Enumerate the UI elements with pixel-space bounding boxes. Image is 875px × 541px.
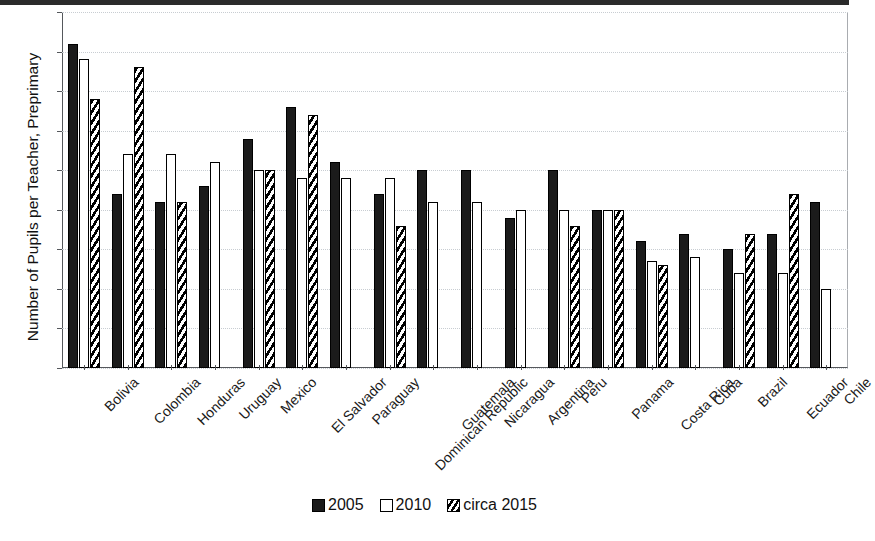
- bar-group: [193, 12, 237, 368]
- bar-2005-honduras: [155, 202, 165, 368]
- gridline: [62, 368, 848, 369]
- bar-group: [149, 12, 193, 368]
- legend-label-2005: 2005: [328, 496, 364, 514]
- y-axis-title: Number of Pupils per Teacher, Preprimary: [24, 12, 42, 382]
- bar-2005-uruguay: [199, 186, 209, 368]
- legend-item-2005: 2005: [312, 496, 364, 514]
- bar-group: [717, 12, 761, 368]
- bar-2010-cuba: [690, 257, 700, 368]
- bar-2010-argentina: [516, 210, 526, 368]
- bar-circa-2015-peru: [570, 226, 580, 368]
- x-axis-tick-label: Bolivia: [101, 374, 141, 414]
- bar-circa-2015-ecuador: [789, 194, 799, 368]
- bar-2005-ecuador: [767, 234, 777, 368]
- x-axis-tick-mark: [477, 365, 478, 370]
- bar-2010-costa-rica: [647, 261, 657, 368]
- legend-label-circa-2015: circa 2015: [463, 496, 537, 514]
- bar-2005-mexico: [243, 139, 253, 368]
- x-axis-tick-mark: [128, 365, 129, 370]
- x-axis-tick-mark: [433, 365, 434, 370]
- legend-item-2010: 2010: [380, 496, 432, 514]
- x-axis-tick-label: Brazil: [754, 374, 790, 410]
- x-axis-tick-mark: [826, 365, 827, 370]
- bar-circa-2015-costa-rica: [658, 265, 668, 368]
- legend-swatch-circa-2015: [447, 499, 460, 512]
- x-axis-tick-mark: [564, 365, 565, 370]
- legend-label-2010: 2010: [396, 496, 432, 514]
- x-axis-tick-mark: [302, 365, 303, 370]
- legend-swatch-2010: [380, 499, 393, 512]
- x-axis-tick-mark: [390, 365, 391, 370]
- bar-2010-colombia: [123, 154, 133, 368]
- bar-2005-dominican-republic: [374, 194, 384, 368]
- bar-group: [630, 12, 674, 368]
- bar-2005-nicaragua: [461, 170, 471, 368]
- x-axis-tick-mark: [215, 365, 216, 370]
- bar-group: [324, 12, 368, 368]
- bar-2010-guatemala: [428, 202, 438, 368]
- bar-group: [673, 12, 717, 368]
- bar-2010-ecuador: [778, 273, 788, 368]
- bar-2010-nicaragua: [472, 202, 482, 368]
- bar-2005-guatemala: [417, 170, 427, 368]
- bar-2005-chile: [810, 202, 820, 368]
- bar-circa-2015-el-salvador: [308, 115, 318, 368]
- bar-group: [455, 12, 499, 368]
- x-axis-tick-mark: [84, 365, 85, 370]
- chart-legend: 2005 2010 circa 2015: [0, 496, 849, 514]
- bar-2010-chile: [821, 289, 831, 368]
- bar-2005-peru: [548, 170, 558, 368]
- x-axis-tick-label: Honduras: [194, 374, 248, 428]
- bar-2010-dominican-republic: [385, 178, 395, 368]
- bar-2005-el-salvador: [286, 107, 296, 368]
- bar-group: [280, 12, 324, 368]
- x-axis-tick-mark: [652, 365, 653, 370]
- bar-2010-honduras: [166, 154, 176, 368]
- bar-group: [106, 12, 150, 368]
- bar-2010-mexico: [254, 170, 264, 368]
- bar-2005-brazil: [723, 249, 733, 368]
- bar-2010-brazil: [734, 273, 744, 368]
- x-axis-tick-mark: [739, 365, 740, 370]
- bar-group: [499, 12, 543, 368]
- top-border: [0, 0, 849, 5]
- y-axis-tick-mark: [57, 368, 62, 369]
- bar-2010-el-salvador: [297, 178, 307, 368]
- bar-2005-bolivia: [68, 44, 78, 368]
- bar-2010-panama: [603, 210, 613, 368]
- bar-circa-2015-mexico: [265, 170, 275, 368]
- bar-2005-argentina: [505, 218, 515, 368]
- x-axis-tick-label: Cuba: [710, 374, 745, 409]
- x-axis-labels: BoliviaColombiaHondurasUruguayMexicoEl S…: [62, 370, 848, 460]
- x-axis-tick-label: Mexico: [277, 374, 320, 417]
- bar-2005-costa-rica: [636, 241, 646, 368]
- x-axis-tick-mark: [171, 365, 172, 370]
- bar-group: [542, 12, 586, 368]
- x-axis-tick-mark: [695, 365, 696, 370]
- bar-2005-paraguay: [330, 162, 340, 368]
- bar-2010-peru: [559, 210, 569, 368]
- bar-circa-2015-bolivia: [90, 99, 100, 368]
- bar-group: [368, 12, 412, 368]
- bar-group: [237, 12, 281, 368]
- bar-group: [586, 12, 630, 368]
- x-axis-tick-mark: [521, 365, 522, 370]
- legend-swatch-2005: [312, 499, 325, 512]
- x-axis-tick-label: Panama: [628, 374, 676, 422]
- plot-area: 454035302520151050: [62, 12, 848, 368]
- legend-item-circa-2015: circa 2015: [447, 496, 537, 514]
- bar-2010-uruguay: [210, 162, 220, 368]
- bar-circa-2015-brazil: [745, 234, 755, 368]
- bar-2005-cuba: [679, 234, 689, 368]
- bar-circa-2015-panama: [614, 210, 624, 368]
- bar-group: [411, 12, 455, 368]
- bar-circa-2015-honduras: [177, 202, 187, 368]
- bar-2010-paraguay: [341, 178, 351, 368]
- bar-circa-2015-colombia: [134, 67, 144, 368]
- bar-circa-2015-dominican-republic: [396, 226, 406, 368]
- bar-2005-panama: [592, 210, 602, 368]
- x-axis-tick-mark: [259, 365, 260, 370]
- bar-2005-colombia: [112, 194, 122, 368]
- bar-series-layer: [62, 12, 848, 368]
